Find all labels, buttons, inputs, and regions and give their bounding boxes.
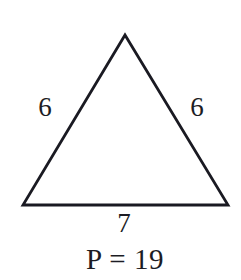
base-label: 7 [117, 210, 131, 237]
perimeter-label: P = 19 [86, 245, 164, 274]
geometry-figure: 6 6 7 P = 19 [0, 0, 241, 280]
side-label-left: 6 [38, 94, 52, 121]
side-label-right: 6 [190, 94, 204, 121]
triangle-shape [0, 0, 241, 280]
